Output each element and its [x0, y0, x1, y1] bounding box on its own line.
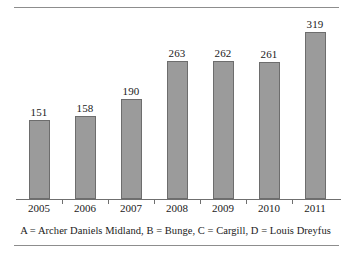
- x-axis-label: 2010: [246, 201, 292, 215]
- bar-value-label: 261: [246, 48, 292, 60]
- x-axis-label: 2005: [16, 201, 62, 215]
- figure-bottom-rule: [14, 245, 339, 246]
- bar-value-label: 151: [16, 106, 62, 118]
- bar-series: 151158190263262261319: [0, 10, 351, 200]
- bar-value-label: 319: [292, 18, 338, 30]
- bar-group: 263: [154, 10, 200, 199]
- bar-value-label: 262: [200, 47, 246, 59]
- bar[interactable]: [167, 61, 188, 199]
- bar[interactable]: [29, 120, 50, 199]
- bar-value-label: 190: [108, 85, 154, 97]
- bar[interactable]: [305, 32, 326, 199]
- bar-group: 190: [108, 10, 154, 199]
- x-axis-label: 2011: [292, 201, 338, 215]
- bar-group: 151: [16, 10, 62, 199]
- bar-group: 261: [246, 10, 292, 199]
- x-axis-label: 2007: [108, 201, 154, 215]
- bar-group: 262: [200, 10, 246, 199]
- x-axis-label: 2009: [200, 201, 246, 215]
- bar[interactable]: [259, 62, 280, 199]
- bar-value-label: 263: [154, 47, 200, 59]
- x-axis-labels: 2005200620072008200920102011: [0, 201, 351, 217]
- chart-figure: 151158190263262261319 200520062007200820…: [0, 0, 351, 257]
- bar[interactable]: [213, 61, 234, 199]
- bar-group: 319: [292, 10, 338, 199]
- bar[interactable]: [121, 99, 142, 199]
- chart-caption: A = Archer Daniels Midland, B = Bunge, C…: [0, 224, 351, 238]
- bar[interactable]: [75, 116, 96, 199]
- figure-top-rule: [14, 7, 339, 8]
- x-axis-label: 2006: [62, 201, 108, 215]
- bar-group: 158: [62, 10, 108, 199]
- plot-area: 151158190263262261319: [0, 10, 351, 200]
- x-axis-label: 2008: [154, 201, 200, 215]
- bar-value-label: 158: [62, 102, 108, 114]
